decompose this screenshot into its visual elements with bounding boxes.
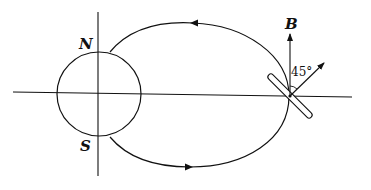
field-line-top: [110, 23, 289, 96]
arrow-left-icon: [190, 20, 198, 27]
b-field-label: B: [285, 17, 298, 32]
horizontal-axis: [13, 92, 352, 97]
angle-label: 45°: [291, 66, 312, 78]
magnetic-field-diagram: [0, 0, 371, 190]
angle-arc: [290, 86, 297, 89]
north-label: N: [79, 37, 93, 52]
arrow-right-icon: [185, 164, 193, 171]
south-label: S: [80, 139, 91, 154]
field-line-bottom: [110, 96, 289, 167]
